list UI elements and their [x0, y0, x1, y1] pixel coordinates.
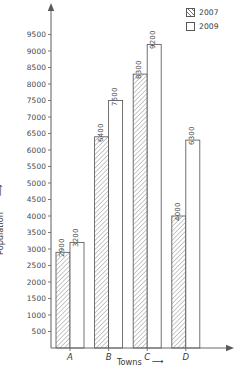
bar-D-2007: [172, 216, 186, 348]
y-axis-tick-label: 2000: [10, 278, 46, 287]
bar-D-2009: [186, 140, 200, 348]
legend-swatch-hatched-icon: [186, 8, 195, 17]
y-axis-tick-label: 3500: [10, 228, 46, 237]
x-axis-title: Towns: [117, 357, 142, 367]
x-axis-arrowhead: [226, 345, 234, 351]
y-axis-tick-label: 7000: [10, 113, 46, 122]
bar-A-2009: [70, 242, 84, 348]
x-axis-tick-label-D: D: [172, 352, 200, 362]
y-axis-arrowhead: [48, 3, 54, 11]
bar-value-label-A-2009: 3200: [72, 229, 80, 248]
legend-item-2007: 2007: [186, 6, 232, 18]
bar-chart: 5001000150020002500300035004000450050005…: [0, 0, 236, 373]
bar-B-2009: [109, 101, 123, 349]
y-axis-tick-label: 4000: [10, 212, 46, 221]
bar-value-label-C-2007: 8300: [135, 60, 143, 79]
y-axis-title: Population: [0, 212, 5, 255]
y-axis-tick-label: 4500: [10, 195, 46, 204]
bar-value-label-C-2009: 9200: [149, 31, 157, 50]
y-axis-tick-label: 9000: [10, 47, 46, 56]
chart-legend: 2007 2009: [186, 6, 232, 34]
bar-value-label-B-2009: 7500: [111, 87, 119, 106]
y-axis-arrow: ⟶: [0, 184, 5, 196]
y-axis-tick-label: 2500: [10, 261, 46, 270]
legend-swatch-white-icon: [186, 22, 195, 31]
legend-label-2009: 2009: [199, 22, 219, 31]
bar-value-label-D-2007: 4000: [174, 202, 182, 221]
y-axis-tick-label: 6500: [10, 129, 46, 138]
y-axis-tick-label: 8000: [10, 80, 46, 89]
bar-B-2007: [95, 137, 109, 348]
bar-C-2009: [147, 44, 161, 348]
x-axis-tick-label-A: A: [56, 352, 84, 362]
y-axis-tick-label: 5000: [10, 179, 46, 188]
y-axis-tick-label: 5500: [10, 162, 46, 171]
legend-label-2007: 2007: [199, 8, 219, 17]
bar-value-label-D-2009: 6300: [188, 126, 196, 145]
y-axis-tick-label: 8500: [10, 63, 46, 72]
y-axis-tick-label: 3000: [10, 245, 46, 254]
bar-A-2007: [56, 252, 70, 348]
bar-value-label-A-2007: 2900: [58, 239, 66, 258]
legend-item-2009: 2009: [186, 20, 232, 32]
y-axis-tick-label: 1000: [10, 311, 46, 320]
bar-value-label-B-2007: 6400: [97, 123, 105, 142]
y-axis-tick-label: 1500: [10, 294, 46, 303]
bars-group: [56, 44, 200, 348]
bar-C-2007: [133, 74, 147, 348]
y-axis-tick-label: 7500: [10, 96, 46, 105]
y-axis-tick-label: 6000: [10, 146, 46, 155]
y-axis-tick-label: 9500: [10, 30, 46, 39]
x-axis-arrow: ⟶: [152, 356, 164, 366]
y-axis-tick-label: 500: [10, 327, 46, 336]
